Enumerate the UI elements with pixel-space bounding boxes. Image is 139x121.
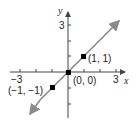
y-axis-label: y — [57, 5, 63, 16]
point-one — [81, 54, 86, 59]
chart-canvas: y x 3 −3 3 (1, 1) (0, 0) (−1, −1) — [0, 0, 139, 121]
x-axis-label: x — [123, 75, 129, 86]
point-origin — [66, 70, 71, 75]
x-tick-label-neg3: −3 — [11, 74, 23, 85]
point-label-origin: (0, 0) — [73, 75, 96, 86]
line-y-equals-x-tail — [30, 100, 40, 114]
point-label-neg-one: (−1, −1) — [8, 85, 43, 96]
point-neg-one — [50, 85, 55, 90]
y-tick-label-3: 3 — [59, 20, 65, 31]
x-tick-label-3: 3 — [113, 74, 119, 85]
point-label-one: (1, 1) — [88, 53, 111, 64]
